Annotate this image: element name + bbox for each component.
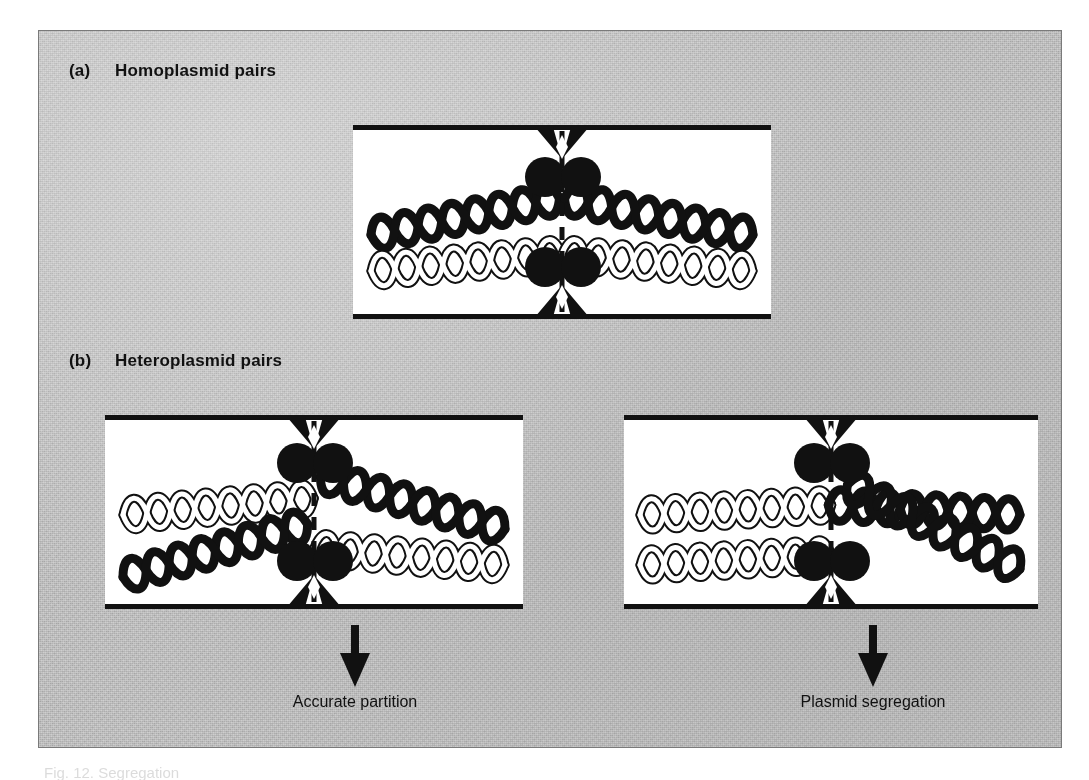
plasmid-segregation-diagram (624, 415, 1038, 609)
septum-gap-bottom (556, 285, 568, 309)
accurate-partition-cell (105, 415, 523, 609)
septum-gap-top (825, 425, 837, 449)
panel-tag-b: (b) (69, 351, 115, 371)
outcome-label-plasmid-segregation: Plasmid segregation (743, 693, 1003, 711)
outcome-label-accurate-partition: Accurate partition (225, 693, 485, 711)
septum-gap-bottom (308, 575, 320, 599)
accurate-partition-diagram (105, 415, 523, 609)
attachment-site (830, 443, 870, 483)
attachment-site (313, 541, 353, 581)
attachment-site (525, 157, 565, 197)
attachment-site (561, 157, 601, 197)
homoplasmid-cell (353, 125, 771, 319)
attachment-site (794, 443, 834, 483)
figure-plate: (a)Homoplasmid pairs (38, 30, 1062, 748)
septum-gap-top (556, 135, 568, 159)
attachment-site (277, 443, 317, 483)
scanned-page: (a)Homoplasmid pairs (0, 0, 1089, 780)
septum-gap-bottom (825, 575, 837, 599)
down-arrow-left (335, 625, 375, 687)
figure-caption-cutoff: Fig. 12. Segregation (44, 764, 684, 780)
plasmid-segregation-cell (624, 415, 1038, 609)
down-arrow-right (853, 625, 893, 687)
septum-gap-top (308, 425, 320, 449)
attachment-site (277, 541, 317, 581)
attachment-site (313, 443, 353, 483)
panel-title-a: Homoplasmid pairs (115, 61, 276, 80)
homoplasmid-cell-diagram (353, 125, 771, 319)
panel-label-b: (b)Heteroplasmid pairs (69, 351, 282, 371)
panel-tag-a: (a) (69, 61, 115, 81)
panel-label-a: (a)Homoplasmid pairs (69, 61, 276, 81)
panel-title-b: Heteroplasmid pairs (115, 351, 282, 370)
attachment-site (561, 247, 601, 287)
attachment-site (525, 247, 565, 287)
attachment-site (830, 541, 870, 581)
strand-upper-left-white (639, 489, 832, 531)
attachment-site (794, 541, 834, 581)
